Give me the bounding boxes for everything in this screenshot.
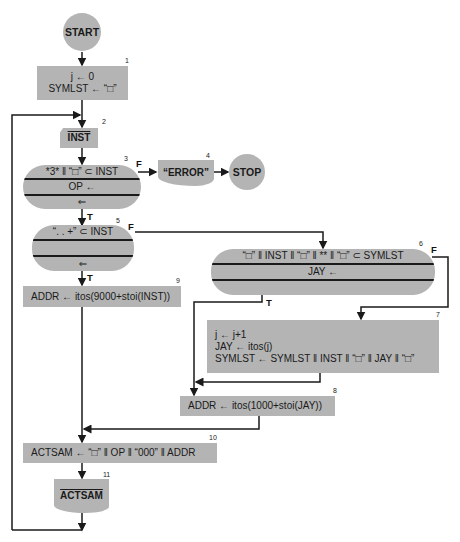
node-7-update-box: j ← j+1 JAY ← itos(j) SYMLST ← SYMLST ‖ … xyxy=(207,320,439,373)
node-5-true-label: T xyxy=(87,272,93,283)
node-5-condition: “. . +” ⊂ INST xyxy=(32,225,134,239)
node-4-label: “ERROR” xyxy=(163,167,209,179)
node-6-empty-row xyxy=(211,281,435,295)
node-4-error-output: “ERROR” xyxy=(158,160,214,186)
node-6-number: 6 xyxy=(419,240,423,247)
node-11-output-doc: ACTSAM xyxy=(54,479,109,513)
stop-label: STOP xyxy=(233,166,261,178)
node-9-number: 9 xyxy=(176,277,180,284)
node-7-line-2: JAY ← itos(j) xyxy=(215,341,431,353)
stop-terminal: STOP xyxy=(229,154,265,190)
node-10-number: 10 xyxy=(209,434,217,441)
node-3-return-arrow-icon: ⇐ xyxy=(23,196,141,209)
node-3-decision: *3* ‖ “□” ⊂ INST OP ← ⇐ xyxy=(23,165,141,209)
node-9-assign-box: ADDR ← itos(9000+stoi(INST)) xyxy=(23,286,181,307)
node-1-init-box: j ← 0 SYMLST ← “□” xyxy=(37,66,128,100)
node-5-false-label: F xyxy=(128,221,134,232)
node-5-number: 5 xyxy=(116,217,120,224)
node-11-label: ACTSAM xyxy=(60,490,103,502)
node-10-text: ACTSAM ← “□” ‖ OP ‖ “000” ‖ ADDR xyxy=(31,447,209,459)
node-3-true-label: T xyxy=(87,211,93,222)
node-6-true-label: T xyxy=(266,297,272,308)
node-6-assign: JAY ← xyxy=(211,265,435,279)
node-6-decision: “□” ‖ INST ‖ “□” ‖ ** ‖ “□” ⊂ SYMLST JAY… xyxy=(211,249,435,295)
node-8-assign-box: ADDR ← itos(1000+stoi(JAY)) xyxy=(180,396,335,416)
node-4-number: 4 xyxy=(206,152,210,159)
node-3-number: 3 xyxy=(124,155,128,162)
node-7-line-1: j ← j+1 xyxy=(215,329,431,341)
node-10-assign-box: ACTSAM ← “□” ‖ OP ‖ “000” ‖ ADDR xyxy=(23,443,217,463)
node-11-number: 11 xyxy=(103,471,110,478)
node-3-false-label: F xyxy=(136,158,142,169)
node-2-label: INST xyxy=(68,132,91,144)
node-1-line-1: j ← 0 xyxy=(71,71,94,83)
node-2-number: 2 xyxy=(102,118,106,125)
start-label: START xyxy=(65,26,99,38)
node-5-return-arrow-icon: ⇐ xyxy=(32,257,134,271)
node-5-assign xyxy=(32,241,134,255)
node-3-condition: *3* ‖ “□” ⊂ INST xyxy=(23,165,141,178)
start-terminal: START xyxy=(63,13,101,51)
node-1-line-2: SYMLST ← “□” xyxy=(48,83,116,95)
node-3-assign: OP ← xyxy=(23,180,141,193)
node-6-condition: “□” ‖ INST ‖ “□” ‖ ** ‖ “□” ⊂ SYMLST xyxy=(211,249,435,263)
node-2-input-card: INST xyxy=(60,128,98,148)
node-1-number: 1 xyxy=(125,57,129,64)
node-9-text: ADDR ← itos(9000+stoi(INST)) xyxy=(31,291,173,303)
node-7-number: 7 xyxy=(436,311,440,318)
node-6-false-label: F xyxy=(431,244,437,255)
node-8-number: 8 xyxy=(333,387,337,394)
node-8-text: ADDR ← itos(1000+stoi(JAY)) xyxy=(188,400,327,412)
node-7-line-3: SYMLST ← SYMLST ‖ INST ‖ “□” ‖ JAY ‖ “□” xyxy=(215,353,431,365)
node-5-decision: “. . +” ⊂ INST ⇐ xyxy=(32,225,134,271)
